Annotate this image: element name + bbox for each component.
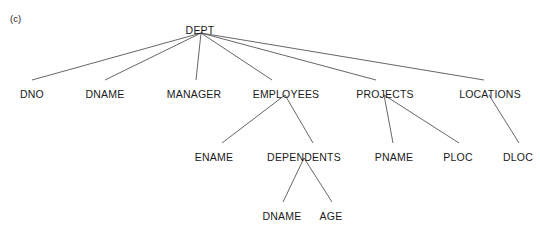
tree-node-ploc: PLOC — [443, 151, 472, 163]
tree-node-dname-dept: DNAME — [86, 88, 125, 100]
tree-edge — [222, 95, 285, 143]
tree-node-locations: LOCATIONS — [459, 88, 521, 100]
tree-node-employees: EMPLOYEES — [253, 88, 320, 100]
tree-edge — [384, 95, 393, 143]
tree-edge — [201, 33, 484, 80]
tree-edge — [384, 95, 459, 143]
tree-node-manager: MANAGER — [167, 88, 222, 100]
figure-canvas: (c) DEPTDNODNAMEMANAGEREMPLOYEESPROJECTS… — [0, 0, 540, 228]
tree-node-ename: ENAME — [195, 151, 233, 163]
tree-edges-layer — [0, 0, 540, 228]
tree-node-dname-dep: DNAME — [263, 210, 302, 222]
tree-edge — [304, 158, 332, 202]
tree-edge — [283, 158, 304, 202]
tree-edge — [285, 95, 313, 143]
tree-edge — [201, 33, 272, 80]
tree-node-pname: PNAME — [375, 151, 413, 163]
edge-group — [32, 33, 519, 202]
tree-edge — [201, 33, 376, 80]
tree-edge — [105, 33, 201, 80]
tree-edge — [32, 33, 201, 80]
tree-node-projects: PROJECTS — [356, 88, 414, 100]
tree-edge — [196, 33, 201, 80]
tree-node-dependents: DEPENDENTS — [267, 151, 341, 163]
tree-node-dept: DEPT — [186, 24, 215, 36]
tree-edge — [489, 95, 519, 143]
tree-node-dloc: DLOC — [503, 151, 533, 163]
tree-node-dno: DNO — [20, 88, 44, 100]
tree-node-age: AGE — [320, 210, 343, 222]
